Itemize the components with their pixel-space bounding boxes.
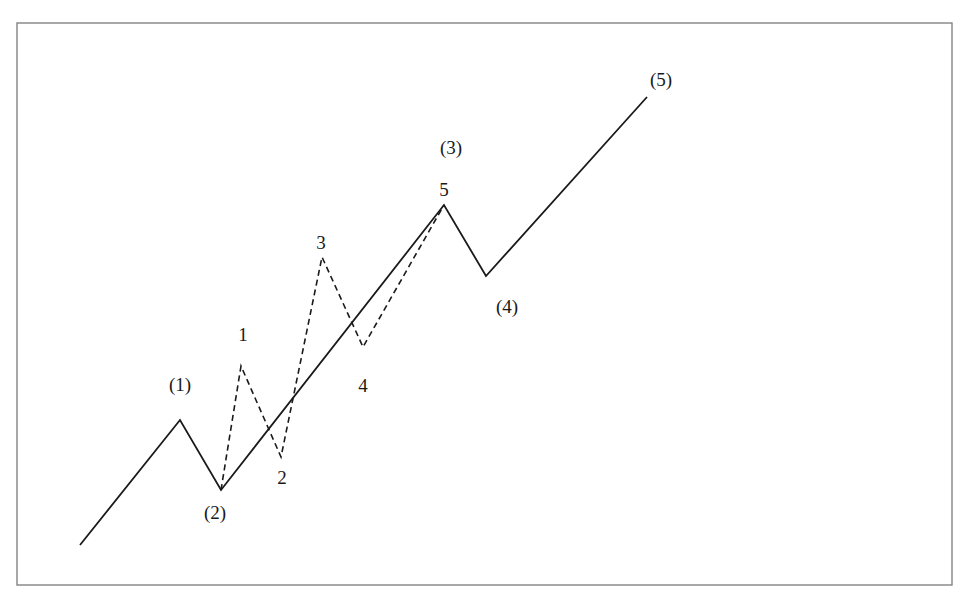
- label-subwave-1: 1: [238, 324, 248, 345]
- label-subwave-4: 4: [358, 375, 368, 396]
- label-wave-4: (4): [496, 296, 518, 318]
- label-subwave-3: 3: [316, 232, 326, 253]
- label-wave-1: (1): [169, 374, 191, 396]
- label-subwave-2: 2: [277, 467, 287, 488]
- main-impulse-wave-line: [80, 97, 647, 545]
- label-wave-3: (3): [440, 137, 462, 159]
- elliott-wave-diagram: (1) (2) (3) (4) (5) 1 2 3 4 5: [0, 0, 965, 599]
- label-wave-2: (2): [204, 502, 226, 524]
- label-subwave-5: 5: [439, 179, 449, 200]
- label-wave-5: (5): [650, 69, 672, 91]
- diagram-frame: [17, 23, 952, 585]
